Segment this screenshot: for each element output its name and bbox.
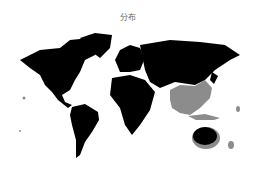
region-africa[interactable]	[110, 75, 155, 135]
region-pacific-dot[interactable]	[19, 130, 21, 132]
region-hawaii[interactable]	[23, 97, 26, 100]
region-indonesia[interactable]	[188, 114, 220, 120]
region-europe[interactable]	[115, 45, 145, 72]
region-australia[interactable]	[193, 127, 217, 145]
region-south-america[interactable]	[70, 104, 99, 158]
region-pacific-island[interactable]	[236, 106, 240, 112]
region-north-asia[interactable]	[140, 40, 240, 88]
region-south-southeast-asia[interactable]	[170, 80, 212, 115]
world-map[interactable]	[0, 0, 255, 172]
region-new-zealand[interactable]	[228, 141, 234, 149]
